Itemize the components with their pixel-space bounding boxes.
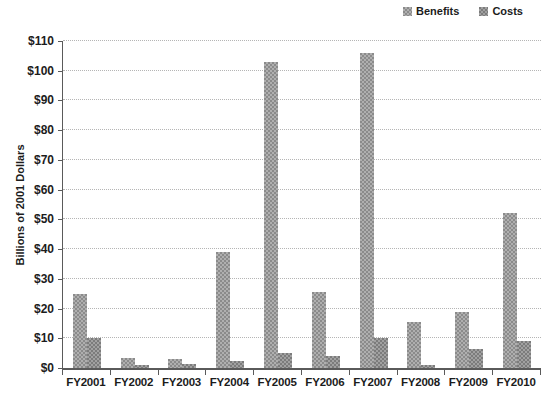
- bar-group-FY2009: [445, 41, 493, 368]
- y-tick-label-50: $50: [0, 212, 54, 226]
- x-tick-label-FY2001: FY2001: [62, 376, 110, 388]
- bar-benefits-FY2005: [264, 62, 278, 368]
- bar-group-FY2002: [111, 41, 159, 368]
- y-tick-label-10: $10: [0, 331, 54, 345]
- x-tick-label-FY2003: FY2003: [158, 376, 206, 388]
- y-tick-label-100: $100: [0, 64, 54, 78]
- x-tick-9: [492, 370, 493, 375]
- y-tick-label-40: $40: [0, 242, 54, 256]
- x-tick-6: [349, 370, 350, 375]
- x-tick-7: [397, 370, 398, 375]
- bar-costs-FY2007: [374, 338, 388, 368]
- x-tick-label-FY2004: FY2004: [205, 376, 253, 388]
- x-tick-0: [62, 370, 63, 375]
- costs-swatch-icon: [479, 7, 488, 16]
- x-tick-label-FY2008: FY2008: [397, 376, 445, 388]
- x-tick-label-FY2002: FY2002: [110, 376, 158, 388]
- bar-costs-FY2009: [469, 349, 483, 368]
- bar-costs-FY2002: [135, 365, 149, 368]
- x-tick-label-FY2007: FY2007: [349, 376, 397, 388]
- x-tick-5: [301, 370, 302, 375]
- x-tick-label-FY2005: FY2005: [253, 376, 301, 388]
- bar-costs-FY2008: [421, 365, 435, 368]
- bar-benefits-FY2008: [407, 322, 421, 368]
- bar-benefits-FY2006: [312, 292, 326, 368]
- legend-item-benefits: Benefits: [403, 5, 459, 17]
- bar-costs-FY2006: [326, 356, 340, 368]
- bar-groups: [63, 41, 541, 368]
- bar-costs-FY2005: [278, 353, 292, 368]
- y-tick-label-60: $60: [0, 183, 54, 197]
- bar-chart-figure: Benefits Costs Billions of 2001 Dollars …: [0, 0, 545, 412]
- legend-item-costs: Costs: [479, 5, 523, 17]
- bar-benefits-FY2007: [360, 53, 374, 368]
- bar-benefits-FY2002: [121, 358, 135, 368]
- bar-benefits-FY2010: [503, 213, 517, 368]
- x-tick-3: [205, 370, 206, 375]
- y-tick-label-30: $30: [0, 272, 54, 286]
- y-axis-labels: $0$10$20$30$40$50$60$70$80$90$100$110: [0, 41, 56, 368]
- y-tick-label-0: $0: [0, 361, 54, 375]
- bar-group-FY2007: [350, 41, 398, 368]
- x-tick-2: [158, 370, 159, 375]
- bar-benefits-FY2001: [73, 294, 87, 368]
- bar-benefits-FY2004: [216, 252, 230, 368]
- y-tick-label-90: $90: [0, 93, 54, 107]
- y-tick-0: [58, 368, 63, 369]
- bar-group-FY2010: [493, 41, 541, 368]
- x-tick-1: [110, 370, 111, 375]
- bar-group-FY2004: [206, 41, 254, 368]
- x-tick-label-FY2006: FY2006: [301, 376, 349, 388]
- y-tick-label-70: $70: [0, 153, 54, 167]
- legend-label-benefits: Benefits: [416, 5, 459, 17]
- x-tick-label-FY2010: FY2010: [492, 376, 540, 388]
- y-tick-label-80: $80: [0, 123, 54, 137]
- bar-costs-FY2003: [182, 364, 196, 368]
- bar-benefits-FY2009: [455, 312, 469, 368]
- bar-group-FY2008: [398, 41, 446, 368]
- plot-area: [62, 41, 541, 370]
- x-tick-10: [540, 370, 541, 375]
- bar-group-FY2003: [159, 41, 207, 368]
- y-tick-label-20: $20: [0, 302, 54, 316]
- legend-label-costs: Costs: [492, 5, 523, 17]
- x-tick-8: [444, 370, 445, 375]
- bar-costs-FY2001: [87, 338, 101, 368]
- bar-group-FY2006: [302, 41, 350, 368]
- y-tick-label-110: $110: [0, 34, 54, 48]
- bar-costs-FY2010: [517, 341, 531, 368]
- chart-legend: Benefits Costs: [403, 5, 523, 17]
- x-tick-label-FY2009: FY2009: [444, 376, 492, 388]
- bar-group-FY2001: [63, 41, 111, 368]
- bar-benefits-FY2003: [168, 359, 182, 368]
- bar-costs-FY2004: [230, 361, 244, 368]
- benefits-swatch-icon: [403, 7, 412, 16]
- x-axis-labels: FY2001FY2002FY2003FY2004FY2005FY2006FY20…: [62, 376, 540, 388]
- x-tick-4: [253, 370, 254, 375]
- bar-group-FY2005: [254, 41, 302, 368]
